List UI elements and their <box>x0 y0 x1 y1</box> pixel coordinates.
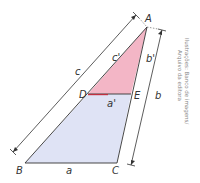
diagram-canvas: A B C D E c c' b' b a' a Ilustrações: Ba… <box>0 0 200 183</box>
credit-line-2: Arquivo da editora <box>176 38 183 148</box>
vertex-label-e: E <box>134 90 141 101</box>
side-label-a: a <box>66 165 72 176</box>
credit-line-1: Ilustrações: Banco de imagens/ <box>183 38 190 148</box>
side-label-a-prime: a' <box>107 98 116 109</box>
side-label-b: b <box>155 90 161 101</box>
side-label-c: c <box>75 66 81 77</box>
vertex-label-a: A <box>144 13 152 24</box>
image-credit: Ilustrações: Banco de imagens/ Arquivo d… <box>168 38 190 148</box>
vertex-label-b: B <box>16 165 23 176</box>
vertex-label-c: C <box>112 165 119 176</box>
side-label-b-prime: b' <box>146 53 155 64</box>
side-label-c-prime: c' <box>112 52 120 63</box>
vertex-label-d: D <box>79 89 87 100</box>
